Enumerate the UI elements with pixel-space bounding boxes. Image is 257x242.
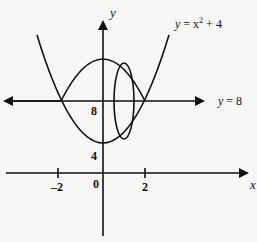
diagram-canvas: y x y = x2 + 4 y = 8 8 4 –2 0 2 (0, 0, 257, 242)
parabola-eq-mid: = x (183, 17, 199, 31)
parabola-eq-y: y (175, 17, 180, 31)
x-axis-label: x (250, 178, 256, 191)
tick-label-8: 8 (91, 105, 97, 117)
parabola-eq-tail: + 4 (206, 17, 222, 31)
tick-label-2: 2 (142, 181, 148, 193)
tick-label-neg2: –2 (51, 181, 63, 193)
line-equation-label: y = 8 (218, 95, 242, 107)
parabola-eq-exp: 2 (199, 16, 203, 25)
tick-label-4: 4 (91, 150, 97, 162)
tick-label-0: 0 (93, 178, 99, 190)
parabola-equation-label: y = x2 + 4 (175, 17, 222, 30)
diagram-graphics (0, 0, 257, 242)
line-eq-y: y (218, 94, 223, 108)
line-eq-value: = 8 (226, 94, 242, 108)
y-axis-label: y (110, 6, 116, 19)
